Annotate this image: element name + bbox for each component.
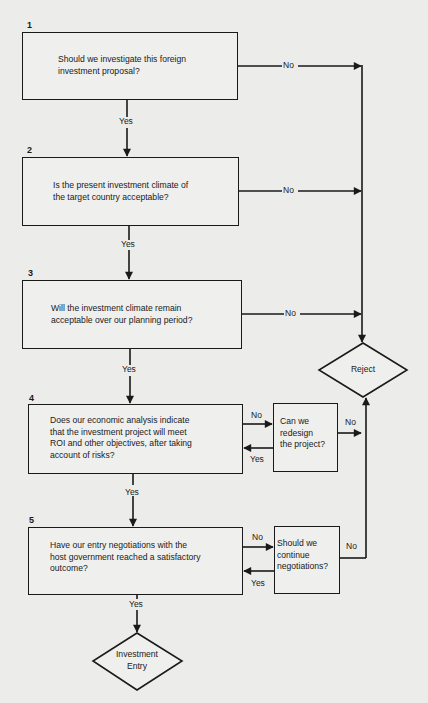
yes-label-2: Yes (121, 239, 135, 251)
question-line: that the investment project will meet (50, 427, 192, 439)
question-line: redesign (280, 428, 325, 440)
step-number-3: 3 (28, 268, 33, 278)
question-line: host government reached a satisfactory (50, 552, 200, 564)
question-line: negotiations? (277, 561, 328, 573)
question-text-2: Is the present investment climate of the… (53, 180, 188, 203)
entry-line: Investment (107, 649, 167, 661)
redesign-project-box: Can we redesign the project? (273, 403, 338, 472)
no-label-3: No (285, 308, 296, 320)
decision-box-1: Should we investigate this foreign inves… (22, 32, 238, 100)
step-number-5: 5 (29, 515, 34, 525)
side-yes-label-4: Yes (250, 454, 264, 466)
flowchart-connectors (0, 0, 428, 703)
question-line: continue (277, 550, 328, 562)
question-text-4: Does our economic analysis indicate that… (50, 415, 192, 461)
decision-box-2: Is the present investment climate of the… (22, 157, 239, 226)
side-question-text-5: Should we continue negotiations? (277, 538, 328, 573)
question-line: ROI and other objectives, after taking (50, 438, 192, 450)
step-number-4: 4 (29, 393, 34, 403)
decision-box-3: Will the investment climate remain accep… (22, 280, 242, 349)
side-no-label-4: No (345, 417, 356, 429)
question-line: acceptable over our planning period? (51, 315, 192, 327)
question-line: investment proposal? (58, 66, 186, 78)
yes-label-4: Yes (125, 487, 139, 499)
question-line: Should we (277, 538, 328, 550)
side-no-label-5: No (346, 541, 357, 553)
question-line: Will the investment climate remain (51, 303, 192, 315)
no-label-2: No (283, 185, 294, 197)
question-text-3: Will the investment climate remain accep… (51, 303, 192, 326)
question-line: Can we (280, 416, 325, 428)
reject-terminal-label: Reject (340, 364, 386, 376)
question-text-1: Should we investigate this foreign inves… (58, 54, 186, 77)
question-line: the target country acceptable? (53, 192, 188, 204)
question-text-5: Have our entry negotiations with the hos… (50, 540, 200, 575)
decision-box-4: Does our economic analysis indicate that… (28, 404, 243, 474)
no-label-1: No (283, 60, 294, 72)
question-line: Should we investigate this foreign (58, 54, 186, 66)
side-question-text-4: Can we redesign the project? (280, 416, 325, 451)
yes-label-1: Yes (119, 116, 133, 128)
investment-entry-terminal-label: Investment Entry (107, 649, 167, 672)
question-line: account of risks? (50, 450, 192, 462)
entry-line: Entry (107, 661, 167, 673)
yes-label-3: Yes (122, 364, 136, 376)
decision-box-5: Have our entry negotiations with the hos… (28, 527, 243, 595)
side-yes-label-5: Yes (251, 578, 265, 590)
question-line: Is the present investment climate of (53, 180, 188, 192)
step-number-2: 2 (27, 145, 32, 155)
question-line: outcome? (50, 563, 200, 575)
question-line: Does our economic analysis indicate (50, 415, 192, 427)
question-line: Have our entry negotiations with the (50, 540, 200, 552)
yes-label-5: Yes (129, 599, 143, 611)
question-line: the project? (280, 439, 325, 451)
no-label-5: No (252, 532, 263, 544)
no-label-4: No (251, 410, 262, 422)
step-number-1: 1 (27, 20, 32, 30)
continue-negotiations-box: Should we continue negotiations? (274, 526, 340, 594)
